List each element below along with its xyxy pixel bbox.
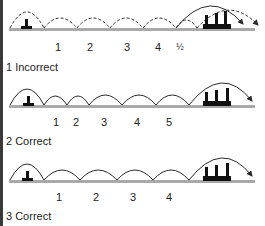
start-hurdle-icon: [22, 171, 33, 181]
stride-label: 2: [93, 191, 99, 203]
stride-label: ½: [176, 41, 184, 53]
row-caption: 1 Incorrect: [6, 61, 58, 73]
row-caption: 2 Correct: [6, 135, 51, 147]
stride-diagram-row-1: [0, 0, 265, 40]
stride-diagram-row-2: [0, 77, 265, 117]
stride-label: 1: [55, 41, 61, 53]
stride-label: 1: [53, 116, 59, 128]
start-hurdle-icon: [21, 19, 32, 29]
stride-arcs: [10, 164, 189, 180]
stride-label: 3: [124, 41, 130, 53]
start-hurdle-icon: [23, 96, 34, 106]
stride-label: 2: [73, 116, 79, 128]
stride-label: 5: [166, 116, 172, 128]
stride-label: 1: [56, 191, 62, 203]
stride-label: 3: [101, 116, 107, 128]
stride-arcs: [10, 89, 189, 105]
triple-hurdle-icon: [203, 11, 231, 29]
triple-hurdle-icon: [203, 88, 231, 106]
stride-diagram-row-3: [0, 152, 265, 192]
stride-label: 4: [166, 191, 172, 203]
row-caption: 3 Correct: [6, 210, 51, 222]
triple-hurdle-icon: [203, 163, 231, 181]
stride-label: 2: [87, 41, 93, 53]
stride-label: 4: [155, 41, 161, 53]
stride-label: 3: [130, 191, 136, 203]
stride-label: 4: [134, 116, 140, 128]
